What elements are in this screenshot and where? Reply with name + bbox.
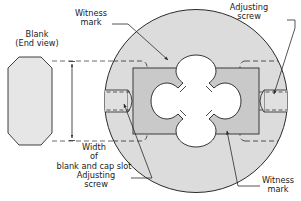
witness-mark-top-label: Witness mark [62,9,120,28]
witness-mark-bottom-label: Witness mark [256,176,300,195]
technical-diagram: Blank (End view) Witness mark Adjusting … [0,0,301,201]
right-adjusting-screw-pocket [259,90,292,112]
adjusting-screw-bottom-label: Adjusting screw [62,171,130,190]
blank-label: Blank (End view) [4,30,70,49]
left-adjusting-screw-pocket [100,90,133,112]
adjusting-screw-top-label: Adjusting screw [216,3,282,22]
width-dimension-line [69,62,75,141]
blank-profile [8,57,52,145]
width-dimension-label: Width of blank and cap slot [34,143,154,171]
